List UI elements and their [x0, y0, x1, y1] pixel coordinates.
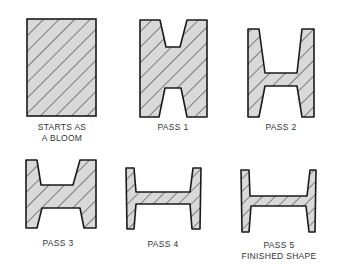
pass1-label: PASS 1 — [158, 122, 189, 133]
pass5-label-line1: PASS 5 — [241, 240, 316, 251]
pass3-label-line1: PASS 3 — [43, 238, 74, 249]
pass5-label: PASS 5 FINISHED SHAPE — [241, 240, 316, 262]
pass4-label: PASS 4 — [148, 239, 179, 250]
bloom-shape — [27, 19, 96, 116]
pass4-label-line1: PASS 4 — [148, 239, 179, 250]
bloom-label: STARTS AS A BLOOM — [38, 122, 87, 144]
pass1-label-line1: PASS 1 — [158, 122, 189, 133]
pass3-shape — [26, 160, 96, 228]
bloom-label-line2: A BLOOM — [38, 133, 87, 144]
pass3-label: PASS 3 — [43, 238, 74, 249]
pass4-shape — [126, 168, 201, 229]
pass2-label-line1: PASS 2 — [266, 122, 297, 133]
pass5-label-line2: FINISHED SHAPE — [241, 251, 316, 262]
pass2-label: PASS 2 — [266, 122, 297, 133]
pass5-shape — [241, 170, 316, 232]
bloom-label-line1: STARTS AS — [38, 122, 87, 133]
pass1-shape — [140, 20, 207, 117]
pass2-shape — [248, 29, 314, 117]
